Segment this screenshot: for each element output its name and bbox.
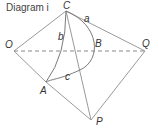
label-o: O bbox=[5, 39, 13, 50]
label-c: C bbox=[63, 0, 71, 11]
arc-b bbox=[46, 11, 66, 82]
edge-ap bbox=[46, 82, 91, 120]
label-arc-b: b bbox=[58, 31, 64, 42]
label-p: P bbox=[96, 116, 103, 127]
edge-oa bbox=[14, 51, 46, 82]
label-a: A bbox=[39, 85, 47, 96]
label-b: B bbox=[95, 38, 102, 49]
label-q: Q bbox=[142, 38, 150, 49]
geometry-diagram: C O Q A P B a b c bbox=[0, 0, 159, 130]
label-arc-a: a bbox=[84, 13, 90, 24]
label-arc-c: c bbox=[65, 71, 70, 82]
edge-qp bbox=[91, 51, 145, 120]
